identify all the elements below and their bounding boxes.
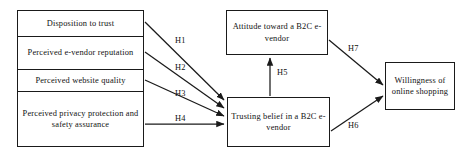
- hypothesis-label-h2: H2: [175, 63, 186, 72]
- hypothesis-label-h4: H4: [175, 114, 186, 123]
- research-model-diagram: Disposition to trust Perceived e-vendor …: [0, 0, 473, 155]
- hypothesis-label-h5: H5: [277, 68, 288, 77]
- node-perceived-website-quality: Perceived website quality: [18, 69, 143, 91]
- node-label: Willingness of online shopping: [389, 75, 451, 97]
- hypothesis-label-h1: H1: [175, 36, 186, 45]
- node-attitude-toward-b2c-e-vendor: Attitude toward a B2C e-vendor: [226, 10, 328, 55]
- node-trusting-belief-in-b2c-e-vendor: Trusting belief in a B2C e-vendor: [227, 97, 330, 147]
- hypothesis-label-h6: H6: [348, 121, 359, 130]
- hypothesis-label-h3: H3: [175, 89, 186, 98]
- hypothesis-label-h7: H7: [348, 44, 359, 53]
- node-label: Perceived website quality: [35, 75, 125, 86]
- node-label: Attitude toward a B2C e-vendor: [227, 21, 327, 43]
- node-perceived-e-vendor-reputation: Perceived e-vendor reputation: [18, 36, 143, 69]
- node-label: Perceived e-vendor reputation: [28, 47, 134, 58]
- node-willingness-of-online-shopping: Willingness of online shopping: [385, 62, 455, 110]
- node-label: Trusting belief in a B2C e-vendor: [228, 111, 329, 133]
- node-disposition-to-trust: Disposition to trust: [18, 11, 143, 36]
- node-perceived-privacy-protection-and-safety-assurance: Perceived privacy protection and safety …: [18, 91, 143, 146]
- antecedents-group: Disposition to trust Perceived e-vendor …: [17, 10, 144, 147]
- node-label: Perceived privacy protection and safety …: [22, 108, 139, 130]
- arrow-h3: [145, 80, 224, 116]
- node-label: Disposition to trust: [47, 18, 115, 29]
